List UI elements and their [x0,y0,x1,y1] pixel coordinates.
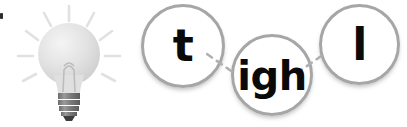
connector-t-to-igh [206,52,236,76]
lightbulb-icon [8,4,130,122]
crop-artifact-dot [0,13,3,19]
phonics-worksheet-graphic: t igh l [0,0,407,127]
bulb-neck [54,75,84,94]
dashed-line [207,54,234,73]
phoneme-label-t: t [173,24,194,68]
phoneme-circle-igh[interactable]: igh [231,34,313,116]
phoneme-label-igh: igh [237,56,306,96]
lightbulb-svg [8,4,130,122]
phoneme-label-l: l [352,23,367,67]
phoneme-circle-l[interactable]: l [319,4,400,85]
bulb-base [58,93,80,121]
